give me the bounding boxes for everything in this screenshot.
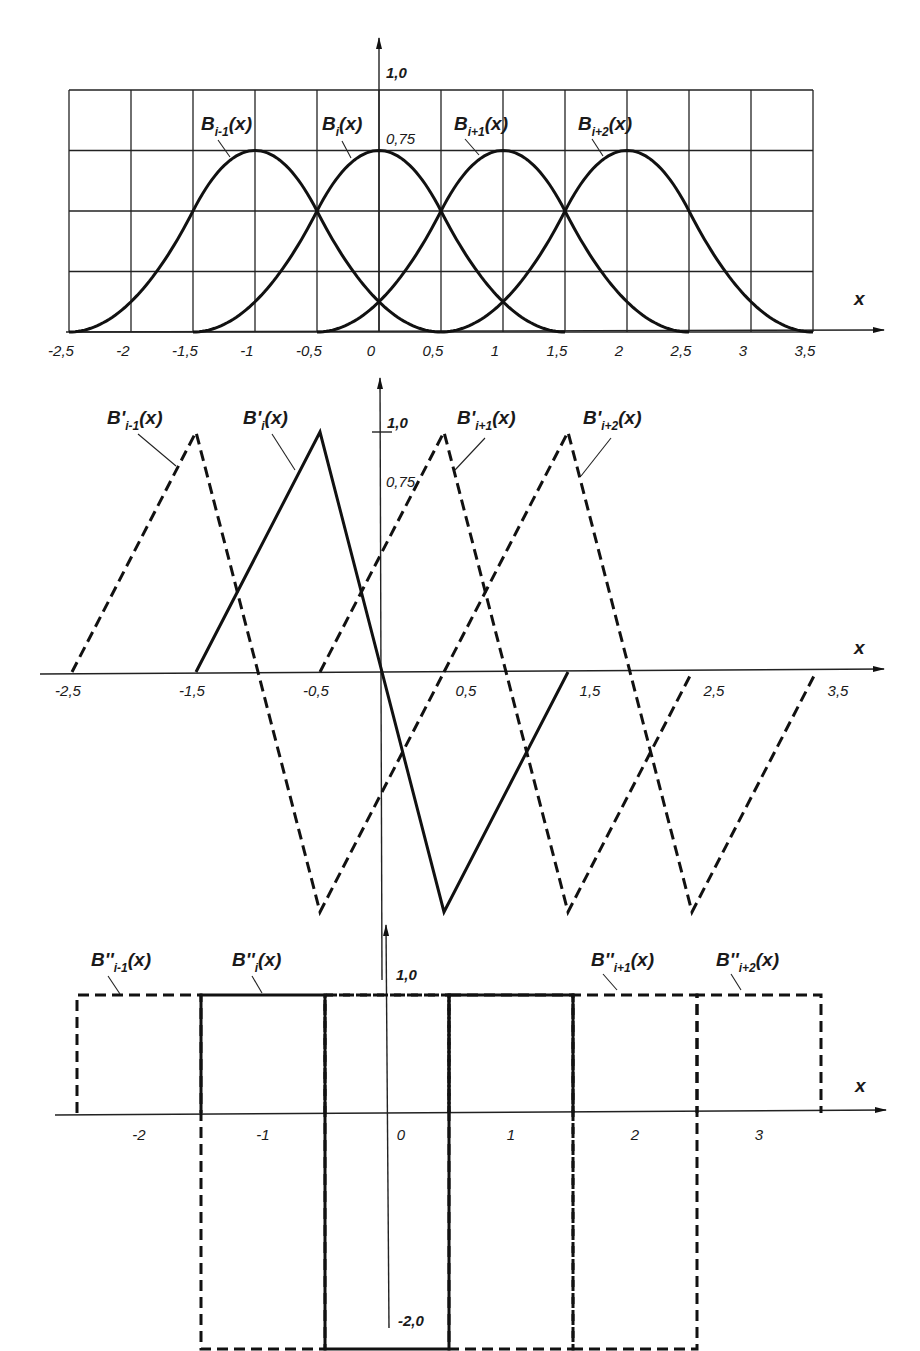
label-b-i-plus-1: Bi+1(x): [454, 113, 508, 155]
y-min-label: -2,0: [398, 1312, 425, 1329]
svg-text:-2,5: -2,5: [48, 342, 75, 359]
svg-text:-1: -1: [240, 342, 253, 359]
y-peak-label: 0,75: [386, 130, 416, 147]
x-tick-labels: -2,5-1,5-0,50,51,52,53,5: [55, 682, 849, 699]
panel-first-derivatives: 1,0 0,75 x -2,5-1,5-0,50,51,52,53,5 B'i-…: [40, 378, 884, 980]
curves: [77, 995, 821, 1349]
panel-bsplines: 1,0 0,75 x -2,5-2-1,5-1-0,500,511,522,53…: [48, 38, 884, 359]
svg-text:B''i(x): B''i(x): [232, 949, 281, 975]
svg-text:2,5: 2,5: [670, 342, 693, 359]
x-axis-label: x: [854, 1075, 867, 1096]
svg-text:B'i-1(x): B'i-1(x): [107, 407, 163, 433]
curve-3: [449, 995, 821, 1349]
svg-text:3: 3: [739, 342, 748, 359]
svg-text:B''i+1(x): B''i+1(x): [591, 949, 654, 975]
x-axis: [40, 669, 884, 674]
x-axis-label: x: [853, 637, 866, 658]
svg-text:0,5: 0,5: [456, 682, 478, 699]
label-b-i: Bi(x): [322, 113, 362, 158]
svg-text:-2: -2: [132, 1126, 146, 1143]
label-dB-i-minus-1: B'i-1(x): [107, 407, 176, 466]
x-tick-labels: -2,5-2-1,5-1-0,500,511,522,533,5: [48, 342, 816, 359]
svg-text:-0,5: -0,5: [303, 682, 330, 699]
label-dB-i-plus-2: B'i+2(x): [581, 407, 642, 476]
x-axis: [55, 1110, 886, 1115]
y-max-label: 1,0: [387, 414, 409, 431]
svg-text:0: 0: [397, 1126, 406, 1143]
svg-text:2: 2: [630, 1126, 640, 1143]
svg-text:Bi(x): Bi(x): [322, 113, 362, 139]
svg-text:1: 1: [507, 1126, 515, 1143]
curve-3: [444, 432, 816, 912]
curve-2: [325, 995, 697, 1349]
svg-text:B'i+2(x): B'i+2(x): [583, 407, 642, 433]
svg-text:3,5: 3,5: [795, 342, 817, 359]
svg-text:B'i(x): B'i(x): [243, 407, 288, 433]
svg-text:1,5: 1,5: [580, 682, 602, 699]
svg-text:-2: -2: [116, 342, 130, 359]
y-axis: [380, 378, 382, 980]
svg-text:2: 2: [614, 342, 624, 359]
svg-text:B''i-1(x): B''i-1(x): [91, 949, 151, 975]
svg-text:Bi-1(x): Bi-1(x): [201, 113, 252, 139]
label-dB-i: B'i(x): [243, 407, 295, 470]
y-axis: [386, 925, 389, 1328]
label-dB-i-plus-1: B'i+1(x): [455, 407, 516, 470]
b-spline-figure: 1,0 0,75 x -2,5-2-1,5-1-0,500,511,522,53…: [0, 0, 920, 1351]
curve-0: [77, 995, 449, 1349]
y-max-label: 1,0: [396, 966, 418, 983]
svg-text:1,5: 1,5: [547, 342, 569, 359]
svg-text:-1: -1: [256, 1126, 269, 1143]
panel-second-derivatives: 1,0 -2,0 x -2-10123 B''i-1(x) B''i(x) B'…: [55, 925, 886, 1349]
svg-text:3,5: 3,5: [828, 682, 850, 699]
svg-text:-0,5: -0,5: [296, 342, 323, 359]
y-peak-label: 0,75: [386, 473, 416, 490]
svg-text:2,5: 2,5: [703, 682, 726, 699]
label-d2B-i-minus-1: B''i-1(x): [91, 949, 151, 994]
label-d2B-i-plus-2: B''i+2(x): [716, 949, 779, 990]
svg-text:-2,5: -2,5: [55, 682, 82, 699]
svg-text:1: 1: [491, 342, 499, 359]
curves: [72, 432, 816, 912]
svg-text:Bi+2(x): Bi+2(x): [578, 113, 632, 139]
svg-text:Bi+1(x): Bi+1(x): [454, 113, 508, 139]
svg-text:-1,5: -1,5: [179, 682, 206, 699]
svg-text:0: 0: [367, 342, 376, 359]
label-d2B-i-plus-1: B''i+1(x): [591, 949, 654, 990]
svg-text:B''i+2(x): B''i+2(x): [716, 949, 779, 975]
svg-text:-1,5: -1,5: [172, 342, 199, 359]
svg-text:3: 3: [755, 1126, 764, 1143]
svg-text:0,5: 0,5: [423, 342, 445, 359]
x-axis-label: x: [853, 288, 866, 309]
y-max-label: 1,0: [386, 64, 408, 81]
svg-text:B'i+1(x): B'i+1(x): [457, 407, 516, 433]
label-d2B-i: B''i(x): [232, 949, 281, 993]
